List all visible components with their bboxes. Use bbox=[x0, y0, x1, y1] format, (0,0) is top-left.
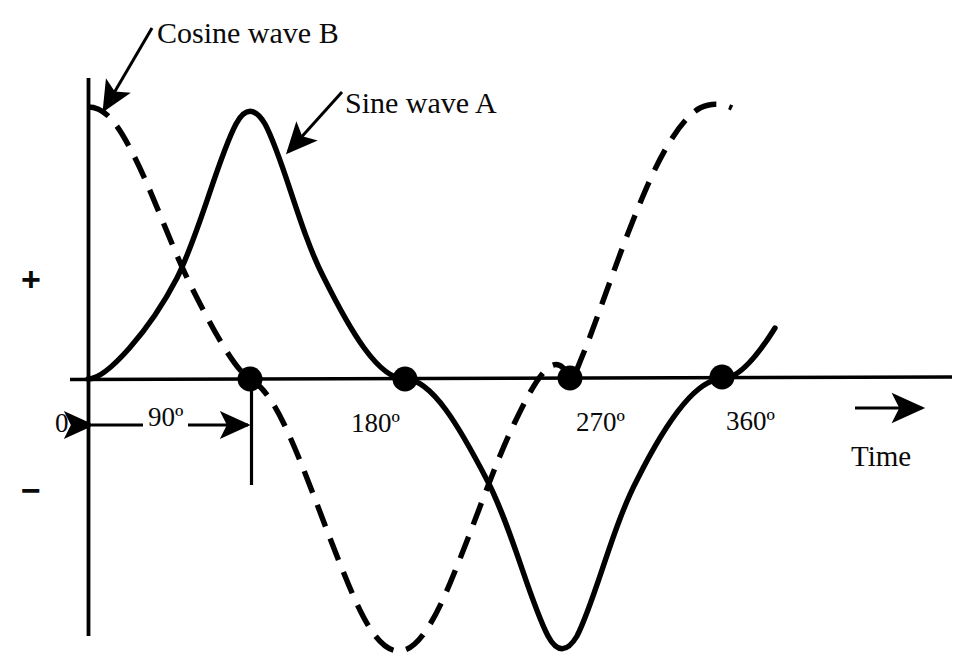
y-axis-negative-sign: − bbox=[21, 473, 41, 507]
x-tick-label-180: 180º bbox=[351, 410, 400, 437]
zero-crossing-dot bbox=[393, 367, 418, 392]
zero-crossing-dot bbox=[558, 366, 583, 391]
figure-canvas: Cosine wave B Sine wave A + − 0 90º 180º… bbox=[0, 0, 966, 666]
y-axis-positive-sign: + bbox=[21, 262, 41, 296]
x-tick-label-270: 270º bbox=[576, 409, 625, 436]
x-axis-label: Time bbox=[851, 442, 911, 471]
sine-label-leader-arrow bbox=[288, 92, 342, 152]
cosine-label-leader-arrow bbox=[104, 28, 152, 110]
zero-crossing-dot bbox=[710, 365, 735, 390]
cosine-wave-label: Cosine wave B bbox=[157, 18, 339, 48]
x-tick-label-360: 360º bbox=[726, 408, 775, 435]
origin-label: 0 bbox=[55, 410, 69, 437]
dimension-label-90deg: 90º bbox=[143, 404, 188, 431]
sine-wave-label: Sine wave A bbox=[345, 88, 497, 118]
x-axis-line bbox=[70, 377, 952, 380]
